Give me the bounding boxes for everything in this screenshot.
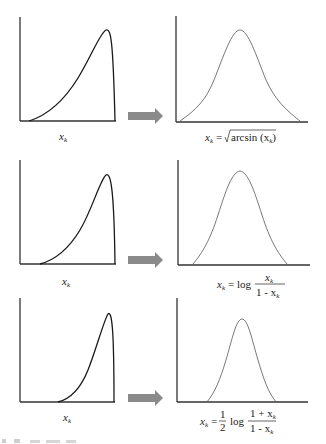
transform-arrow-icon <box>128 252 163 268</box>
skewed-distribution-curve <box>58 314 114 402</box>
skewed-distribution-curve <box>29 30 115 121</box>
skewed-distribution-curve <box>40 175 115 264</box>
transform-formula-2: xk = log xk 1 - xk <box>216 271 285 300</box>
formula-numerator: 1 + xk <box>250 407 277 421</box>
formula-lhs: xk <box>204 131 214 145</box>
formula-log: log <box>230 415 245 427</box>
formula-denominator: 1 - xk <box>256 286 280 300</box>
normal-distribution-curve <box>193 171 287 264</box>
panel-row-2: xk xk = log xk 1 - xk <box>20 160 310 300</box>
input-distribution-plot-1: xk <box>20 17 116 144</box>
normal-distribution-curve <box>180 30 300 121</box>
formula-arcsin: arcsin (xk) <box>231 131 276 145</box>
text-fragment <box>66 440 76 443</box>
input-distribution-plot-3: xk <box>20 298 115 425</box>
formula-lhs: xk <box>216 278 226 292</box>
panel-row-1: xk xk = arcsin (xk) <box>20 16 308 145</box>
formula-equals-log: = log <box>228 278 252 290</box>
input-axis-label: xk <box>58 130 68 144</box>
formula-equals: = <box>211 415 217 427</box>
text-fragment <box>2 439 6 443</box>
transform-formula-3: xk = 1 2 log 1 + xk 1 - xk <box>199 407 277 436</box>
formula-numerator: xk <box>264 271 274 285</box>
cropped-footer-text <box>2 439 76 443</box>
coefficient-denominator: 2 <box>220 421 226 433</box>
output-distribution-plot-3: xk = 1 2 log 1 + xk 1 - xk <box>177 298 308 436</box>
input-distribution-plot-2: xk <box>20 160 116 289</box>
output-distribution-plot-2: xk = log xk 1 - xk <box>178 160 310 300</box>
normal-distribution-curve <box>207 319 276 402</box>
transformation-diagram: xk xk = arcsin (xk) <box>0 0 326 444</box>
input-axis-label: xk <box>62 411 72 425</box>
text-fragment <box>46 440 60 443</box>
coefficient-numerator: 1 <box>220 408 226 420</box>
transform-arrow-icon <box>128 108 163 124</box>
transform-formula-1: xk = arcsin (xk) <box>204 130 276 145</box>
text-fragment <box>30 440 40 443</box>
formula-denominator: 1 - xk <box>250 422 274 436</box>
formula-equals: = <box>216 131 222 143</box>
output-distribution-plot-1: xk = arcsin (xk) <box>176 16 308 145</box>
input-axis-label: xk <box>61 275 71 289</box>
formula-lhs: xk <box>199 415 209 429</box>
panel-row-3: xk xk = 1 2 log 1 + xk <box>20 298 308 436</box>
transform-arrow-icon <box>128 390 163 406</box>
text-fragment <box>14 439 20 443</box>
